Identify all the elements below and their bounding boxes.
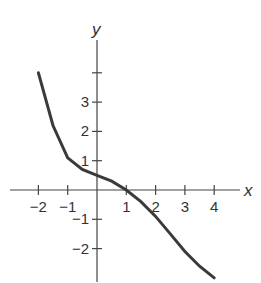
svg-text:−2: −2 <box>30 198 47 215</box>
svg-text:1: 1 <box>81 152 89 169</box>
svg-text:3: 3 <box>81 93 89 110</box>
y-axis-label: y <box>91 20 102 39</box>
svg-text:3: 3 <box>181 198 189 215</box>
svg-text:1: 1 <box>122 198 130 215</box>
x-axis-label: x <box>243 181 253 200</box>
svg-text:−2: −2 <box>72 240 89 257</box>
svg-text:2: 2 <box>81 122 89 139</box>
svg-text:−1: −1 <box>72 210 89 227</box>
chart: x y −2−11234−2−1123 <box>0 0 261 283</box>
function-curve <box>38 73 214 278</box>
svg-text:4: 4 <box>210 198 218 215</box>
ticks: −2−11234−2−1123 <box>30 73 219 257</box>
